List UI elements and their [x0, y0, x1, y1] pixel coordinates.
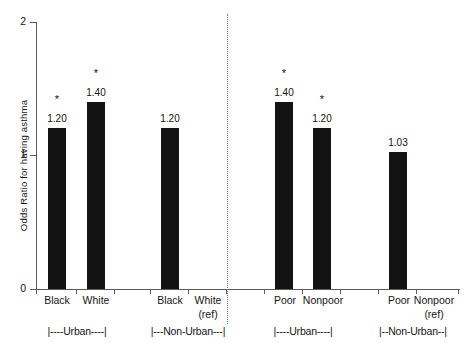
bar-white-urban	[87, 102, 105, 289]
y-tick-mark-1	[30, 155, 37, 156]
x-category-sub-nonpoor-nonurban-ref: (ref)	[406, 308, 462, 320]
x-axis-line	[30, 289, 460, 290]
bar-poor-nonurban	[389, 152, 407, 289]
panel-divider-dotted-line	[227, 14, 228, 324]
bar-black-nonurban	[161, 128, 179, 289]
x-category-label-white-nonurban: White	[184, 294, 232, 306]
bar-nonpoor-urban	[313, 128, 331, 289]
bar-black-urban	[48, 128, 66, 289]
bar-value-poor-urban: 1.40	[264, 87, 304, 98]
significance-star-white-urban: *	[86, 70, 106, 76]
group-label-nonurban-race: |---Non-Urban---|	[128, 325, 248, 337]
y-tick-label-2: 2	[0, 15, 26, 27]
y-tick-label-0: 0	[0, 282, 26, 294]
x-category-label-nonpoor-urban: Nonpoor	[295, 294, 351, 306]
x-category-sub-white-nonurban-ref: (ref)	[184, 308, 232, 320]
bar-value-black-nonurban: 1.20	[150, 113, 190, 124]
significance-star-poor-urban: *	[274, 70, 294, 76]
significance-star-black-urban: *	[47, 96, 67, 102]
significance-star-nonpoor-urban: *	[312, 96, 332, 102]
x-category-label-white-urban: White	[72, 294, 120, 306]
bar-value-white-urban: 1.40	[76, 87, 116, 98]
bar-value-black-urban: 1.20	[37, 113, 77, 124]
bar-poor-urban	[275, 102, 293, 289]
y-axis-label: Odds Ratio for having asthma	[18, 56, 29, 276]
bar-value-poor-nonurban: 1.03	[378, 137, 418, 148]
group-label-urban-race: |----Urban----|	[22, 325, 132, 337]
y-tick-mark-2	[30, 22, 37, 23]
asthma-odds-ratio-chart: Odds Ratio for having asthma 2 1 0 1.20 …	[0, 0, 464, 343]
bar-value-nonpoor-urban: 1.20	[302, 113, 342, 124]
x-category-label-nonpoor-nonurban: Nonpoor	[406, 294, 462, 306]
y-tick-label-1: 1	[0, 148, 26, 160]
group-label-urban-poverty: |----Urban----|	[248, 325, 358, 337]
group-label-nonurban-poverty: |--Non-Urban--|	[358, 325, 464, 337]
